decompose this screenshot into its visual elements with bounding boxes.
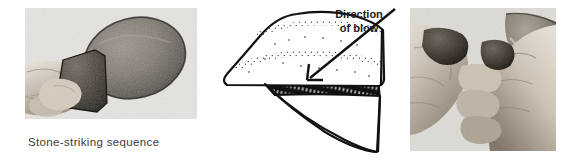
- blow-label-line-1: Direction: [322, 8, 396, 22]
- core-right-edge: [381, 30, 382, 86]
- right-hand-flake: [481, 40, 515, 70]
- photo-left-content: [25, 8, 197, 119]
- detached-flake: [265, 84, 380, 152]
- figure-caption: Stone-striking sequence: [28, 136, 159, 148]
- photo-right-content: [410, 8, 556, 151]
- figure-root: Direction of blow: [0, 0, 574, 162]
- blow-label-line-2: of blow: [322, 22, 396, 36]
- direction-of-blow-label: Direction of blow: [322, 8, 396, 35]
- photo-right-two-hands: [410, 8, 556, 151]
- photo-left-stone-and-hand: [25, 8, 197, 119]
